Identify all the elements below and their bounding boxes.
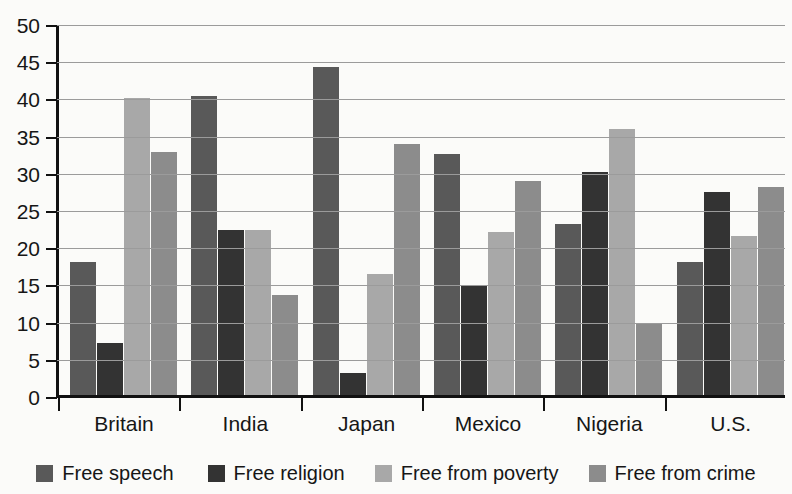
grid-line (57, 25, 785, 26)
grid-line (57, 62, 785, 63)
y-tick-mark (46, 174, 57, 176)
legend-label: Free speech (62, 463, 173, 483)
y-tick-mark (46, 360, 57, 362)
grid-line (57, 211, 785, 212)
bar (245, 230, 271, 397)
bar (367, 274, 393, 397)
y-tick-mark (46, 137, 57, 139)
bar (218, 230, 244, 397)
y-tick-mark (46, 323, 57, 325)
y-tick-label: 0 (2, 387, 40, 408)
x-category-label: Japan (338, 412, 395, 436)
y-tick-mark (46, 99, 57, 101)
legend-label: Free from poverty (401, 463, 559, 483)
y-tick-label: 25 (2, 201, 40, 222)
y-tick-label: 5 (2, 349, 40, 370)
y-tick-mark (46, 25, 57, 27)
bar (555, 224, 581, 397)
axes (57, 25, 785, 397)
legend-label: Free from crime (615, 463, 756, 483)
y-tick-label: 30 (2, 163, 40, 184)
y-tick-mark (46, 285, 57, 287)
y-tick-mark (46, 62, 57, 64)
bar (488, 232, 514, 397)
grouped-bar-chart: 05101520253035404550 BritainIndiaJapanMe… (0, 0, 792, 494)
legend-swatch-icon (208, 465, 225, 482)
grid-line (57, 285, 785, 286)
plot-area: 05101520253035404550 BritainIndiaJapanMe… (0, 0, 792, 455)
y-tick-label: 45 (2, 52, 40, 73)
x-category-label: Britain (94, 412, 154, 436)
legend-swatch-icon (589, 465, 606, 482)
grid-line (57, 248, 785, 249)
bar (461, 286, 487, 397)
bar (515, 181, 541, 397)
x-group-tick (301, 397, 303, 411)
bar (97, 343, 123, 397)
y-tick-label: 50 (2, 15, 40, 36)
y-axis-tick-labels: 05101520253035404550 (0, 0, 40, 420)
bar (70, 262, 96, 397)
y-tick-label: 20 (2, 238, 40, 259)
y-tick-mark (46, 397, 57, 399)
bar (758, 187, 784, 397)
grid-line (57, 360, 785, 361)
bar (340, 373, 366, 397)
bar (582, 172, 608, 397)
legend-item: Free speech (36, 463, 173, 483)
legend-item: Free religion (208, 463, 345, 483)
y-tick-mark (46, 248, 57, 250)
bar (704, 192, 730, 397)
legend-item: Free from poverty (375, 463, 559, 483)
x-group-tick (543, 397, 545, 411)
bar (609, 129, 635, 397)
x-group-tick (665, 397, 667, 411)
grid-line (57, 174, 785, 175)
bar (272, 295, 298, 397)
x-group-tick (58, 397, 60, 411)
x-group-tick (179, 397, 181, 411)
grid-line (57, 99, 785, 100)
y-tick-label: 15 (2, 275, 40, 296)
chart-legend: Free speechFree religionFree from povert… (0, 460, 792, 486)
grid-line (57, 137, 785, 138)
bar (731, 236, 757, 397)
x-axis-tick-marks (57, 397, 785, 411)
bar (191, 96, 217, 397)
y-tick-label: 40 (2, 89, 40, 110)
x-category-label: Mexico (455, 412, 522, 436)
y-tick-label: 10 (2, 312, 40, 333)
x-category-label: U.S. (710, 412, 751, 436)
bar (313, 67, 339, 397)
grid-line (57, 323, 785, 324)
legend-swatch-icon (36, 465, 53, 482)
x-category-label: Nigeria (576, 412, 643, 436)
legend-item: Free from crime (589, 463, 756, 483)
y-tick-label: 35 (2, 126, 40, 147)
y-tick-mark (46, 211, 57, 213)
legend-swatch-icon (375, 465, 392, 482)
x-category-label: India (223, 412, 269, 436)
bar (677, 262, 703, 397)
legend-label: Free religion (234, 463, 345, 483)
x-axis-category-labels: BritainIndiaJapanMexicoNigeriaU.S. (57, 412, 785, 442)
x-group-tick (422, 397, 424, 411)
